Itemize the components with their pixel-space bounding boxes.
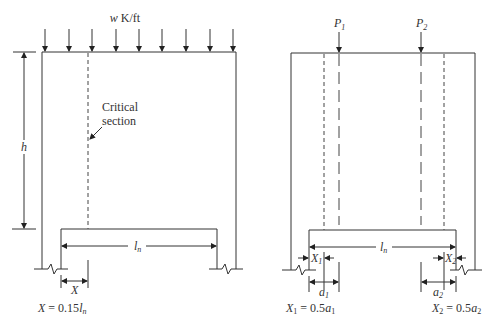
height-dimension: h: [12, 52, 36, 229]
p2-label: P2: [415, 16, 427, 32]
x1-label: X1: [310, 251, 322, 266]
x2-label: X2: [444, 251, 456, 266]
distributed-load-arrows: [45, 29, 233, 51]
x1-formula: X1 = 0.5a1: [285, 301, 335, 316]
right-span-dimension: ln: [310, 240, 455, 255]
height-label: h: [21, 140, 27, 154]
x-dimension: X: [61, 260, 88, 297]
section-label: section: [102, 114, 136, 128]
a2-label: a2: [433, 285, 443, 300]
deep-beam-diagram: w K/ft Critical section h: [0, 0, 492, 324]
left-support-break-2: [282, 265, 316, 275]
left-beam-diagram: w K/ft Critical section h: [12, 11, 243, 316]
left-beam-outline: [42, 52, 236, 269]
right-support-break-2: [450, 265, 482, 275]
right-span-label: ln: [380, 240, 387, 255]
x2-formula: X2 = 0.5a2: [431, 301, 481, 316]
left-support-break: [34, 264, 68, 274]
right-support-break: [209, 264, 243, 274]
right-beam-diagram: P1 P2 ln X1: [282, 16, 482, 316]
critical-label: Critical: [102, 100, 139, 114]
span-label: ln: [134, 239, 141, 254]
distributed-load-label: w K/ft: [110, 11, 141, 25]
span-dimension: ln: [62, 239, 216, 254]
p1-label: P1: [333, 16, 345, 32]
right-beam-outline: [291, 53, 475, 270]
a2-dimension: a2: [421, 262, 456, 300]
x-label: X: [70, 283, 79, 297]
x-formula: X = 0.15ln: [37, 301, 86, 316]
critical-pointer-arrow: [90, 127, 102, 139]
a1-label: a1: [319, 285, 329, 300]
